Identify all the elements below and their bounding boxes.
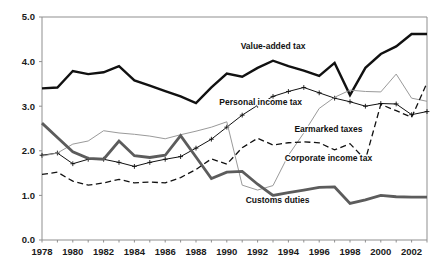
x-tick-label: 1990 — [216, 246, 237, 257]
x-tick-label: 1980 — [62, 246, 83, 257]
y-tick-label: 5.0 — [22, 11, 35, 22]
x-tick-label: 1994 — [278, 246, 300, 257]
chart-container: Value-added taxValue-added taxPersonal i… — [0, 0, 441, 276]
chart-background — [0, 0, 441, 276]
x-tick-label: 2000 — [370, 246, 391, 257]
x-tick-label: 2002 — [401, 246, 422, 257]
tax-revenue-line-chart: Value-added taxValue-added taxPersonal i… — [0, 0, 441, 276]
x-tick-label: 1992 — [247, 246, 268, 257]
y-tick-label: 1.0 — [22, 190, 35, 201]
x-tick-label: 1998 — [339, 246, 360, 257]
y-tick-label: 3.0 — [22, 101, 35, 112]
x-tick-label: 1978 — [31, 246, 52, 257]
series-label-customs-duties: Customs duties — [246, 195, 310, 205]
series-label-value-added-tax: Value-added tax — [241, 41, 306, 51]
x-tick-label: 1996 — [309, 246, 330, 257]
series-label-personal-income-tax: Personal income tax — [219, 97, 302, 107]
y-tick-label: 4.0 — [22, 56, 35, 67]
y-tick-label: 2.0 — [22, 145, 35, 156]
y-tick-label: 0.0 — [22, 234, 35, 245]
x-tick-label: 1986 — [155, 246, 176, 257]
x-tick-label: 1984 — [124, 246, 146, 257]
x-tick-label: 1988 — [185, 246, 206, 257]
series-label-earmarked-taxes: Earmarked taxes — [294, 124, 362, 134]
series-label-corporate-income-tax: Corporate income tax — [285, 153, 373, 163]
x-tick-label: 1982 — [93, 246, 114, 257]
